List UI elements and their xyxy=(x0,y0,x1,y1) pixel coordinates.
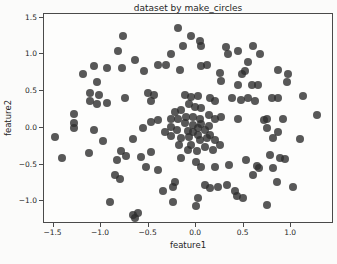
scatter-point xyxy=(70,124,78,132)
scatter-point xyxy=(137,153,145,161)
scatter-point xyxy=(205,122,213,130)
scatter-point xyxy=(99,137,107,145)
scatter-point xyxy=(58,154,66,162)
y-tick-mark xyxy=(39,90,43,91)
x-tick-mark xyxy=(100,223,101,227)
scatter-point xyxy=(234,115,242,123)
y-tick-label: −0.5 xyxy=(19,159,37,168)
scatter-point xyxy=(167,50,175,58)
scatter-point xyxy=(249,42,257,50)
scatter-point xyxy=(169,198,177,206)
scatter-point xyxy=(118,64,126,72)
scatter-point xyxy=(93,100,101,108)
scatter-point xyxy=(193,147,201,155)
scatter-point xyxy=(244,58,252,66)
scatter-point xyxy=(249,171,257,179)
scatter-point xyxy=(167,132,175,140)
scatter-point xyxy=(154,116,162,124)
scatter-point xyxy=(251,97,259,105)
x-axis-label: feature1 xyxy=(43,240,333,250)
scatter-point xyxy=(131,56,139,64)
scatter-point xyxy=(233,192,241,200)
scatter-point xyxy=(175,141,183,149)
scatter-figure: dataset by make_circles feature2 −1.5−1.… xyxy=(0,0,337,264)
scatter-point xyxy=(211,163,219,171)
scatter-point xyxy=(289,183,297,191)
scatter-point xyxy=(176,66,184,74)
scatter-point xyxy=(263,124,271,132)
x-tick-label: −1.5 xyxy=(43,228,61,237)
scatter-point xyxy=(214,183,222,191)
scatter-point xyxy=(79,70,87,78)
y-tick-mark xyxy=(39,17,43,18)
x-tick-label: 0.0 xyxy=(189,228,201,237)
scatter-point xyxy=(201,143,209,151)
scatter-point xyxy=(194,194,202,202)
scatter-point xyxy=(203,134,211,142)
scatter-point xyxy=(273,178,281,186)
scatter-point xyxy=(147,97,155,105)
x-tick-mark xyxy=(290,223,291,227)
scatter-point xyxy=(192,202,200,210)
scatter-point xyxy=(121,94,129,102)
x-tick-mark xyxy=(195,223,196,227)
scatter-point xyxy=(177,154,185,162)
scatter-point xyxy=(169,183,177,191)
scatter-point xyxy=(90,62,98,70)
scatter-point xyxy=(93,78,101,86)
scatter-point xyxy=(147,148,155,156)
scatter-point xyxy=(234,81,242,89)
y-tick-mark xyxy=(39,200,43,201)
scatter-point xyxy=(142,163,150,171)
scatter-point xyxy=(224,50,232,58)
x-tick-label: −0.5 xyxy=(138,228,156,237)
y-axis-label: feature2 xyxy=(3,73,13,163)
scatter-point xyxy=(266,151,274,159)
x-tick-mark xyxy=(243,223,244,227)
scatter-point xyxy=(194,131,202,139)
scatter-point xyxy=(254,81,262,89)
scatter-point xyxy=(269,164,277,172)
scatter-point xyxy=(119,32,127,40)
scatter-point xyxy=(187,32,195,40)
scatter-point xyxy=(95,91,103,99)
scatter-point xyxy=(216,141,224,149)
scatter-point xyxy=(296,135,304,143)
scatter-point xyxy=(313,111,321,119)
scatter-point xyxy=(134,209,142,217)
scatter-point xyxy=(274,66,282,74)
scatter-point xyxy=(263,201,271,209)
scatter-point xyxy=(51,133,59,141)
scatter-point xyxy=(181,119,189,127)
plot-area xyxy=(43,13,333,223)
scatter-point xyxy=(106,198,114,206)
scatter-point xyxy=(129,135,137,143)
scatter-point xyxy=(103,64,111,72)
scatter-point xyxy=(174,24,182,32)
scatter-point xyxy=(140,67,148,75)
y-tick-label: 1.5 xyxy=(25,12,37,21)
scatter-point xyxy=(194,92,202,100)
scatter-point xyxy=(299,92,307,100)
scatter-point xyxy=(162,61,170,69)
scatter-point xyxy=(225,161,233,169)
y-tick-label: 0.5 xyxy=(25,86,37,95)
scatter-point xyxy=(238,70,246,78)
scatter-point xyxy=(269,134,277,142)
scatter-point xyxy=(242,156,250,164)
x-tick-mark xyxy=(53,223,54,227)
scatter-point xyxy=(197,42,205,50)
scatter-point xyxy=(154,166,162,174)
scatter-point xyxy=(279,115,287,123)
scatter-point xyxy=(90,126,98,134)
y-tick-mark xyxy=(39,53,43,54)
scatter-point xyxy=(197,104,205,112)
scatter-point xyxy=(228,94,236,102)
scatter-point xyxy=(159,187,167,195)
scatter-point xyxy=(179,42,187,50)
scatter-point xyxy=(197,163,205,171)
scatter-point xyxy=(211,97,219,105)
scatter-point xyxy=(116,175,124,183)
y-tick-label: 1.0 xyxy=(25,49,37,58)
scatter-point xyxy=(223,181,231,189)
